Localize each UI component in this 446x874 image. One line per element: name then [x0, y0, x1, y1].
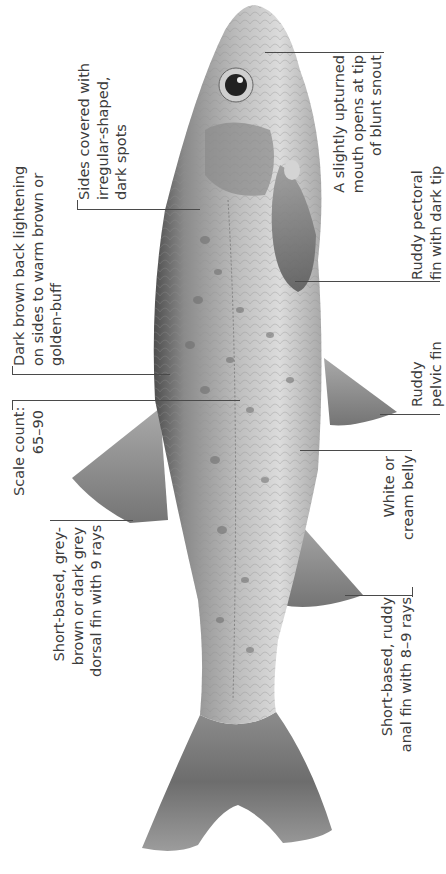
annotation-dorsal-line-3: dorsal fin with 9 rays [87, 527, 106, 677]
leader-anal [345, 595, 412, 596]
annotation-mouth-line-3: of blunt snout [367, 55, 386, 195]
fish-body [154, 5, 322, 724]
annotation-back: Dark brown back lightening on sides to w… [10, 166, 66, 366]
annotation-pelvic-line-1: Ruddy [408, 341, 427, 407]
annotation-pelvic: Ruddy pelvic fin [408, 341, 445, 407]
annotation-scales-line-1: Scale count: [10, 410, 29, 496]
annotation-pectoral-line-1: Ruddy pectoral [408, 166, 427, 280]
annotation-spots-line-2: irregular-shaped, [94, 63, 113, 200]
annotation-mouth-line-2: mouth opens at tip [349, 55, 368, 195]
leader-back [12, 374, 170, 375]
leader-belly [300, 450, 412, 451]
leader-mouth [265, 52, 384, 53]
eye [219, 68, 253, 102]
annotation-dorsal-line-1: Short-based, grey- [50, 527, 69, 677]
annotation-pelvic-line-2: pelvic fin [427, 341, 446, 407]
annotation-spots: Sides covered with irregular-shaped, dar… [75, 63, 131, 200]
annotation-belly-line-1: White or [380, 456, 399, 540]
caudal-fin [142, 712, 332, 851]
annotation-mouth: A slightly upturned mouth opens at tip o… [330, 55, 386, 195]
leader-scales [12, 400, 240, 401]
pelvic-fin [324, 358, 397, 425]
annotation-back-line-2: on sides to warm brown or [29, 166, 48, 366]
annotation-spots-line-3: dark spots [112, 63, 131, 200]
annotation-anal-line-2: anal fin with 8–9 rays [397, 597, 416, 755]
dorsal-fin [72, 408, 168, 523]
annotation-belly-line-2: cream belly [399, 456, 418, 540]
annotation-back-line-3: golden-buff [47, 166, 66, 366]
leader-pectoral [295, 281, 440, 282]
annotation-pectoral-line-2: fin with dark tip [427, 166, 446, 280]
annotation-spots-line-1: Sides covered with [75, 63, 94, 200]
tick-back [12, 366, 13, 375]
leader-pelvic [380, 414, 440, 415]
annotation-scales-line-2: 65–90 [29, 410, 48, 496]
annotation-pectoral: Ruddy pectoral fin with dark tip [408, 166, 445, 280]
annotation-dorsal: Short-based, grey- brown or dark grey do… [50, 527, 106, 677]
annotation-back-line-1: Dark brown back lightening [10, 166, 29, 366]
tick-spots [77, 200, 78, 210]
annotation-mouth-line-1: A slightly upturned [330, 55, 349, 195]
annotation-anal-line-1: Short-based, ruddy [378, 597, 397, 755]
annotation-anal: Short-based, ruddy anal fin with 8–9 ray… [378, 597, 415, 755]
annotation-belly: White or cream belly [380, 456, 417, 540]
leader-spots [77, 209, 200, 210]
leader-dorsal [50, 520, 133, 521]
annotation-dorsal-line-2: brown or dark grey [69, 527, 88, 677]
tick-anal [412, 587, 413, 597]
annotation-scales: Scale count: 65–90 [10, 410, 47, 496]
